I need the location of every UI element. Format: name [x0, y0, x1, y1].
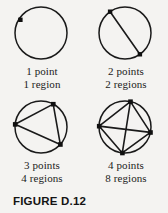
panel-three-points: 3 points 4 regions	[0, 96, 84, 184]
circle-diagram-4-points	[95, 96, 157, 158]
chord	[53, 104, 60, 144]
circle-outline	[15, 7, 67, 59]
regions-label: 8 regions	[84, 172, 168, 185]
point-marker	[58, 142, 63, 147]
point-marker	[18, 18, 22, 22]
regions-label: 2 regions	[84, 78, 168, 91]
point-marker	[108, 10, 112, 14]
chord	[15, 104, 53, 124]
panel-two-points: 2 points 2 regions	[84, 2, 168, 90]
circle-diagram-3-points	[11, 96, 73, 158]
panel-caption: 2 points 2 regions	[84, 65, 168, 90]
points-label: 2 points	[84, 65, 168, 78]
points-label: 4 points	[84, 159, 168, 172]
point-marker	[128, 99, 133, 104]
point-marker	[148, 130, 153, 135]
panel-caption: 1 point 1 region	[0, 65, 84, 90]
figure-caption: FIGURE D.12	[13, 195, 86, 207]
panel-caption: 3 points 4 regions	[0, 159, 84, 184]
points-label: 3 points	[0, 159, 84, 172]
panel-one-point: 1 point 1 region	[0, 2, 84, 90]
panel-caption: 4 points 8 regions	[84, 159, 168, 184]
point-marker	[51, 102, 56, 107]
circle-diagram-2-points	[96, 2, 156, 64]
point-marker	[120, 151, 125, 156]
panel-four-points: 4 points 8 regions	[84, 96, 168, 184]
point-marker	[97, 124, 102, 129]
chord	[99, 126, 150, 132]
chord	[122, 102, 130, 153]
regions-label: 4 regions	[0, 172, 84, 185]
circle-diagram-1-point	[12, 2, 72, 64]
regions-label: 1 region	[0, 78, 84, 91]
chord	[99, 102, 130, 127]
figure-d12: 1 point 1 region 2 points 2 regions	[0, 0, 168, 213]
point-marker	[13, 122, 18, 127]
points-label: 1 point	[0, 65, 84, 78]
point-marker	[138, 52, 142, 56]
chord	[15, 124, 60, 144]
chord	[110, 12, 140, 55]
